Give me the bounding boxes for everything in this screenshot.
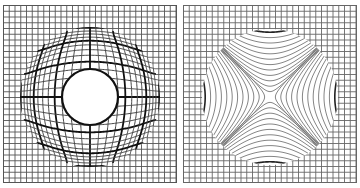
radial-distortion-grid <box>3 5 177 183</box>
right-distortion-panel <box>183 5 357 183</box>
left-distortion-panel <box>3 5 177 183</box>
saddle-distortion-grid <box>183 5 357 183</box>
